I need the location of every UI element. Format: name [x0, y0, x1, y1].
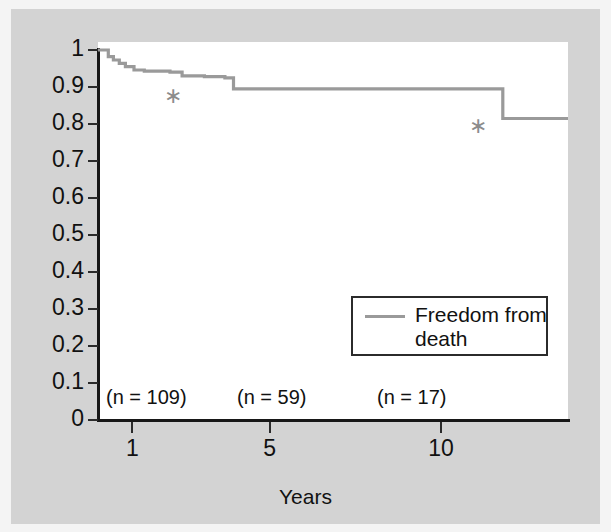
y-tick: [88, 160, 98, 162]
x-tick-label: 5: [240, 437, 300, 460]
x-axis-title: Years: [0, 485, 611, 509]
y-tick-label: 0.1: [12, 370, 84, 393]
y-tick: [88, 382, 98, 384]
at-risk-count-label: (n = 17): [377, 386, 446, 409]
y-tick-label: 0: [12, 407, 84, 430]
legend-label: Freedom from death: [415, 303, 547, 350]
x-tick: [440, 422, 442, 433]
legend-box: Freedom from death: [351, 296, 548, 356]
y-tick-label: 0.6: [12, 185, 84, 208]
y-tick: [88, 86, 98, 88]
y-tick-label: 1: [12, 37, 84, 60]
y-tick-label-wrap: 0.2: [4, 333, 84, 357]
x-tick: [131, 422, 133, 433]
censor-star-1-icon: ∗: [164, 85, 182, 107]
y-tick: [88, 308, 98, 310]
y-tick: [88, 197, 98, 199]
x-axis-line: [97, 419, 570, 422]
y-tick-label: 0.9: [12, 74, 84, 97]
y-tick-label-wrap: 0.3: [4, 296, 84, 320]
y-tick-label: 0.7: [12, 148, 84, 171]
y-tick: [88, 419, 98, 421]
y-tick: [88, 271, 98, 273]
y-tick-label: 0.4: [12, 259, 84, 282]
y-tick-label-wrap: 1: [4, 37, 84, 61]
censor-star-2-icon: ∗: [469, 115, 487, 137]
legend-line-swatch: [365, 315, 405, 318]
y-tick-label-wrap: 0.4: [4, 259, 84, 283]
y-tick: [88, 49, 98, 51]
y-tick-label: 0.8: [12, 111, 84, 134]
figure-root: 00.10.20.30.40.50.60.70.80.91 1510 (n = …: [0, 0, 611, 532]
y-tick-label-wrap: 0.8: [4, 111, 84, 135]
x-tick-label: 10: [411, 437, 471, 460]
y-tick-label: 0.2: [12, 333, 84, 356]
x-tick: [269, 422, 271, 433]
y-tick-label-wrap: 0: [4, 407, 84, 431]
y-tick-label-wrap: 0.9: [4, 74, 84, 98]
y-tick: [88, 234, 98, 236]
y-tick: [88, 345, 98, 347]
y-tick-label-wrap: 0.5: [4, 222, 84, 246]
y-tick: [88, 123, 98, 125]
at-risk-count-label: (n = 109): [106, 386, 187, 409]
at-risk-count-label: (n = 59): [237, 386, 306, 409]
y-tick-label-wrap: 0.6: [4, 185, 84, 209]
x-tick-label: 1: [102, 437, 162, 460]
y-tick-label: 0.3: [12, 296, 84, 319]
y-tick-label-wrap: 0.7: [4, 148, 84, 172]
y-tick-label: 0.5: [12, 222, 84, 245]
y-tick-label-wrap: 0.1: [4, 370, 84, 394]
